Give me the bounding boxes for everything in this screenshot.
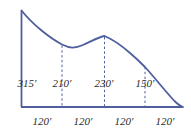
figure-container: 315' 210' 230' 150' 120' 120' 120' 120' [0,0,191,136]
base-interval-label-4: 120' [156,116,175,127]
boundary-curve [22,11,184,108]
base-interval-label-2: 120' [74,116,93,127]
offset-label-210: 210' [53,78,72,89]
offset-label-230: 230' [95,78,114,89]
base-interval-label-1: 120' [33,116,52,127]
offset-label-315: 315' [18,78,37,89]
offset-label-150: 150' [136,78,155,89]
base-interval-label-3: 120' [115,116,134,127]
